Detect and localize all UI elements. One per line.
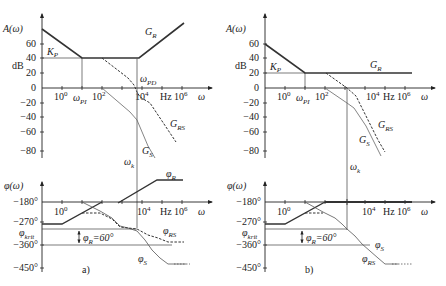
unit-db: dB <box>12 60 24 71</box>
tick-m80-b: −80 <box>243 145 259 156</box>
hz-unit: Hz <box>160 91 172 102</box>
bode-diagram-figure: A(ω) 60 40 dB 20 0 −20 −40 −60 −80 100 ω… <box>0 0 446 286</box>
xtick-1e6-b: 106 <box>397 90 411 102</box>
xtick-1e0: 100 <box>54 90 68 102</box>
tick-20: 20 <box>26 67 36 78</box>
omega-axis-label-b: ω <box>421 91 428 102</box>
tick-40-b: 40 <box>249 52 259 63</box>
omega-pi-label-b: ωPI <box>296 92 310 106</box>
panel-a-label: a) <box>82 264 90 276</box>
panel-a: A(ω) 60 40 dB 20 0 −20 −40 −60 −80 100 ω… <box>2 14 212 276</box>
xtick-1e0-b: 100 <box>277 90 291 102</box>
tick-m40-b: −40 <box>243 111 259 122</box>
xtick-1e4-b: 104 <box>366 90 380 102</box>
phase-omega-label-b: ω <box>421 206 428 217</box>
omega-pd-label: ωPD <box>140 73 156 87</box>
phase-hz-unit-b: Hz <box>383 206 395 217</box>
tick-m180: −180° <box>13 196 38 207</box>
tick-m60-b: −60 <box>243 126 259 137</box>
tick-m270-b: −270° <box>236 216 261 227</box>
ptick-1e0: 100 <box>54 205 68 217</box>
tick-60: 60 <box>26 38 36 49</box>
curve-phi-r <box>118 180 183 203</box>
gs-label: GS <box>142 145 153 159</box>
phase-margin-label-b: φR=60° <box>306 232 337 246</box>
phase-axis-label: φ(ω) <box>4 180 24 192</box>
magnitude-axis-label-b: A(ω) <box>225 23 246 35</box>
phi-s-label-b: φS <box>375 239 385 253</box>
curve-phi-r-b <box>265 202 325 224</box>
curve-gr <box>42 23 184 58</box>
tick-0: 0 <box>31 82 36 93</box>
tick-m450: −450° <box>13 262 38 273</box>
curve-grs-b <box>326 73 385 152</box>
omega-k-label-b: ωk <box>350 161 361 175</box>
tick-60-b: 60 <box>249 38 259 49</box>
omega-k-label: ωk <box>124 156 135 170</box>
xtick-1e2: 102 <box>92 90 106 102</box>
unit-db-b: dB <box>235 60 247 71</box>
grs-label: GRS <box>170 118 186 132</box>
ptick-1e0-b: 100 <box>277 205 291 217</box>
gr-label-b: GR <box>370 59 382 73</box>
magnitude-axis-label: A(ω) <box>2 23 23 35</box>
tick-m450-b: −450° <box>236 262 261 273</box>
ptick-1e4-b: 104 <box>362 205 376 217</box>
tick-0-b: 0 <box>254 82 259 93</box>
gs-label-b: GS <box>359 134 370 148</box>
ptick-1e6-b: 106 <box>397 205 411 217</box>
ptick-1e6: 106 <box>174 205 188 217</box>
omega-pi-label: ωPI <box>73 92 87 106</box>
xtick-1e2-b: 102 <box>315 90 329 102</box>
tick-40: 40 <box>26 52 36 63</box>
phase-axis-label-b: φ(ω) <box>227 180 247 192</box>
phase-margin-label: φR=60° <box>83 232 114 246</box>
hz-unit-b: Hz <box>383 91 395 102</box>
phi-rs-label-b: φRS <box>362 253 376 267</box>
ptick-1e4: 104 <box>137 205 151 217</box>
tick-m20: −20 <box>20 97 36 108</box>
gr-label: GR <box>145 26 157 40</box>
tick-m80: −80 <box>20 145 36 156</box>
tick-m40: −40 <box>20 111 36 122</box>
phase-omega-label: ω <box>198 206 205 217</box>
curve-gr-b <box>265 44 412 73</box>
kp-label-b: KP <box>269 61 282 74</box>
phase-hz-unit: Hz <box>160 206 172 217</box>
curve-phi-r-low <box>42 202 102 224</box>
tick-20-b: 20 <box>249 67 259 78</box>
kp-label: KP <box>46 46 59 59</box>
phase-plot-b: φ(ω) −180° −270° φkrit −360° −450° 100 1… <box>227 180 435 276</box>
grs-label-b: GRS <box>378 119 394 133</box>
panel-b: A(ω) 60 40 dB 20 0 −20 −40 −60 −80 100 ω… <box>225 14 435 276</box>
phi-rs-label: φRS <box>163 225 177 239</box>
tick-m360: −360° <box>13 239 38 250</box>
phi-s-label: φS <box>138 253 148 267</box>
tick-m180-b: −180° <box>236 196 261 207</box>
tick-m270: −270° <box>13 216 38 227</box>
tick-m360-b: −360° <box>236 239 261 250</box>
panel-b-label: b) <box>305 264 313 276</box>
omega-axis-label: ω <box>198 91 205 102</box>
phase-plot-a: φ(ω) −180° −270° φkrit −360° −450° 100 1… <box>4 168 212 276</box>
tick-m60: −60 <box>20 126 36 137</box>
tick-m20-b: −20 <box>243 97 259 108</box>
xtick-1e6: 106 <box>174 90 188 102</box>
